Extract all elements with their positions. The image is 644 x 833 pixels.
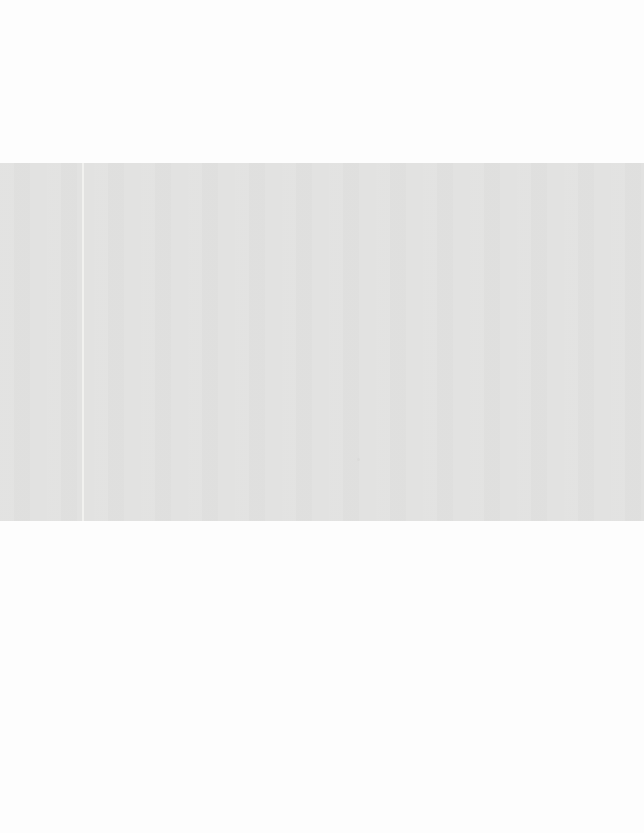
blank-scanned-page	[0, 0, 644, 833]
dust-speck	[357, 458, 360, 461]
vertical-crease-line	[82, 163, 84, 521]
gray-scan-band	[0, 163, 644, 521]
